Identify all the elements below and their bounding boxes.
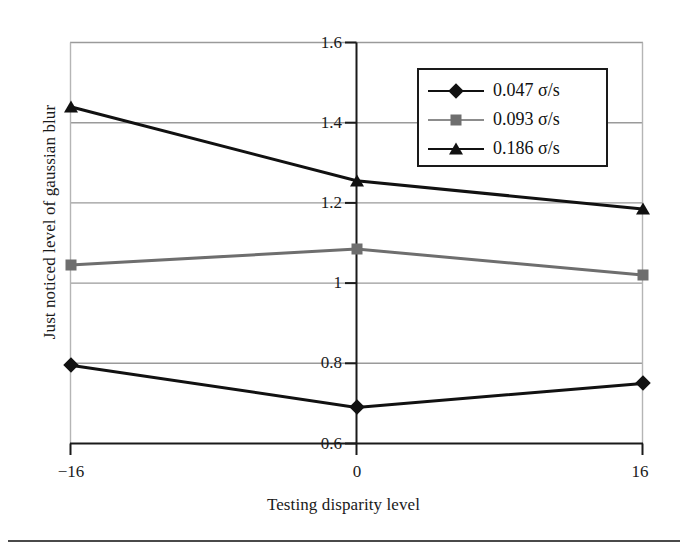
ytick-label: 0.8	[321, 353, 342, 373]
square-marker-icon	[637, 270, 648, 281]
triangle-marker-icon	[350, 174, 364, 186]
square-marker-icon	[351, 244, 362, 255]
ytick-label: 1.6	[321, 33, 342, 53]
triangle-marker-icon	[428, 139, 484, 159]
xtick-label-zero: 0	[353, 462, 362, 482]
xtick-label-16: 16	[632, 462, 649, 482]
legend-item-0186[interactable]: 0.186 σ/s	[419, 134, 606, 163]
legend-label: 0.186 σ/s	[484, 138, 560, 159]
triangle-marker-icon	[64, 100, 78, 112]
x-axis-title: Testing disparity level	[0, 495, 687, 515]
ytick-label: 1.4	[321, 113, 342, 133]
y-axis-title: Just noticed level of gaussian blur	[40, 12, 60, 432]
ytick-label: 0.6	[321, 434, 342, 454]
chart-legend: 0.047 σ/s 0.093 σ/s 0.186 σ/s	[417, 68, 608, 167]
triangle-marker-icon	[636, 202, 650, 214]
diamond-marker-icon	[428, 81, 484, 101]
legend-item-0093[interactable]: 0.093 σ/s	[419, 105, 606, 134]
legend-label: 0.093 σ/s	[484, 109, 560, 130]
x-axis	[70, 444, 643, 456]
square-marker-icon	[428, 110, 484, 130]
chart-figure: 1.6 1.4 1.2 1 0.8 0.6 −16 0 16 Testing d…	[0, 0, 687, 549]
legend-item-0047[interactable]: 0.047 σ/s	[419, 76, 606, 105]
page-divider	[8, 540, 680, 542]
legend-label: 0.047 σ/s	[484, 80, 560, 101]
ytick-label: 1	[334, 273, 343, 293]
square-marker-icon	[65, 260, 76, 271]
ytick-label: 1.2	[321, 193, 342, 213]
xtick-label-neg16: −16	[58, 462, 85, 482]
